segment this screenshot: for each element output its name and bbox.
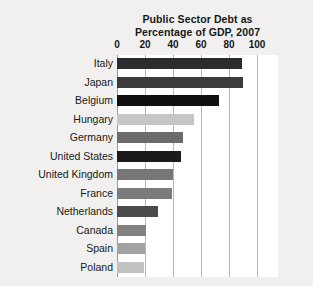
x-tick-label-40: 40 [167,39,178,50]
bar-united-kingdom [117,169,173,180]
category-label-netherlands: Netherlands [0,205,113,217]
bar-row [117,240,278,258]
bar-row [117,222,278,240]
category-label-belgium: Belgium [0,94,113,106]
category-label-japan: Japan [0,76,113,88]
chart-title: Public Sector Debt as Percentage of GDP,… [117,13,278,38]
bar-row [117,55,278,73]
bar-canada [117,225,146,236]
category-label-italy: Italy [0,57,113,69]
category-label-france: France [0,187,113,199]
category-axis-labels: ItalyJapanBelgiumHungaryGermanyUnited St… [0,55,113,277]
x-tick-label-100: 100 [249,39,266,50]
category-label-united-states: United States [0,150,113,162]
bar-united-states [117,151,181,162]
bar-row [117,185,278,203]
bar-hungary [117,114,194,125]
bar-row [117,74,278,92]
chart-figure: Public Sector Debt as Percentage of GDP,… [0,0,313,286]
category-label-united-kingdom: United Kingdom [0,168,113,180]
chart-title-line-1: Public Sector Debt as [117,13,278,26]
bar-belgium [117,95,219,106]
bar-spain [117,243,145,254]
bar-row [117,259,278,277]
bar-row [117,203,278,221]
category-label-germany: Germany [0,131,113,143]
x-tick-label-80: 80 [223,39,234,50]
plot-area [117,55,278,277]
x-tick-label-60: 60 [195,39,206,50]
bar-poland [117,262,144,273]
chart-title-line-2: Percentage of GDP, 2007 [117,26,278,39]
bar-france [117,188,172,199]
category-label-spain: Spain [0,242,113,254]
x-axis-tick-labels: 020406080100 [0,39,313,53]
bars-layer [117,55,278,277]
category-label-poland: Poland [0,261,113,273]
bar-germany [117,132,183,143]
x-tick-label-20: 20 [139,39,150,50]
bar-row [117,92,278,110]
bar-row [117,166,278,184]
bar-italy [117,58,242,69]
category-label-canada: Canada [0,224,113,236]
bar-row [117,129,278,147]
x-tick-label-0: 0 [114,39,120,50]
bar-netherlands [117,206,158,217]
category-label-hungary: Hungary [0,113,113,125]
bar-row [117,111,278,129]
bar-row [117,148,278,166]
bar-japan [117,77,243,88]
